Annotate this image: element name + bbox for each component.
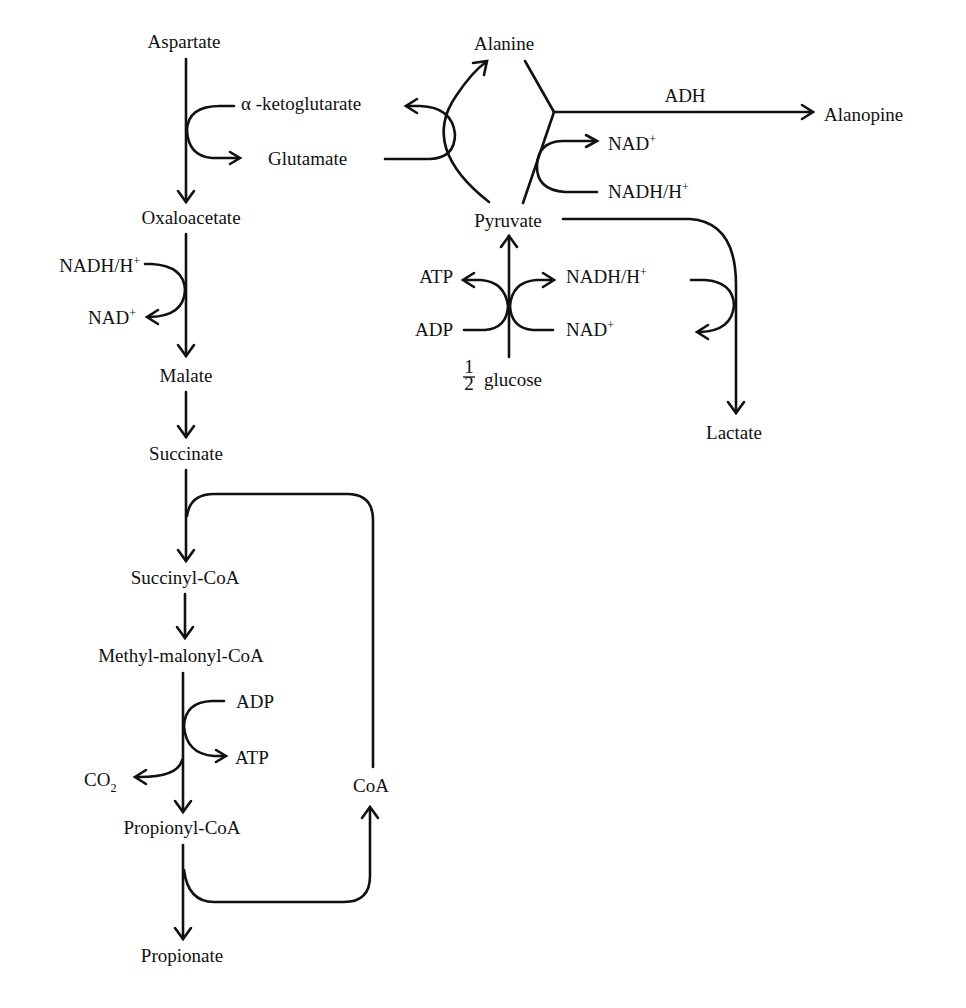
svg-text:glucose: glucose xyxy=(484,369,542,390)
label-lactate: Lactate xyxy=(706,422,762,443)
label-alanopine: Alanopine xyxy=(824,104,903,125)
arrow-pyruvate-to-lactate xyxy=(563,219,744,413)
svg-text:2: 2 xyxy=(464,373,474,394)
label-malate: Malate xyxy=(160,365,213,386)
arrow-glucose-to-pyruvate xyxy=(501,236,517,357)
arrow-adp-to-atp-mmcoa xyxy=(184,701,226,762)
label-glycolysis-nad: NAD+ xyxy=(566,318,614,340)
arrow-nadh-to-nad-oxalo xyxy=(145,264,185,324)
arrow-adp-to-atp-glycolysis xyxy=(463,273,508,330)
label-succinate: Succinate xyxy=(149,443,223,464)
arrow-nad-to-nadh-glycolysis xyxy=(510,273,554,330)
arrow-propionylcoa-to-propionate xyxy=(175,845,191,939)
label-oxalo-nad: NAD+ xyxy=(88,306,136,328)
label-oxalo-nadh: NADH/H+ xyxy=(59,254,140,276)
arrow-nadh-to-nad-lactate xyxy=(691,280,734,339)
label-mmcoa-atp: ATP xyxy=(235,747,269,768)
arrow-oxaloacetate-to-malate xyxy=(178,234,194,356)
label-coa: CoA xyxy=(353,775,389,796)
arrow-pyruvate-to-alanine xyxy=(444,61,489,202)
arrow-malate-to-succinate xyxy=(178,392,194,437)
label-methylmalonyl-coa: Methyl-malonyl-CoA xyxy=(98,645,264,666)
label-succinyl-coa: Succinyl-CoA xyxy=(131,567,240,588)
arrow-ketoglutarate-to-glutamate xyxy=(187,106,240,164)
label-glycolysis-adp: ADP xyxy=(415,319,453,340)
label-adh: ADH xyxy=(664,85,705,106)
arrow-nadh-to-nad-alanopine xyxy=(537,135,597,192)
label-propionate: Propionate xyxy=(141,945,223,966)
label-glutamate: Glutamate xyxy=(268,148,347,169)
label-glycolysis-atp: ATP xyxy=(419,266,453,287)
arrow-coa-loop-top xyxy=(187,494,373,767)
label-alpha-ketoglutarate: α -ketoglutarate xyxy=(241,93,361,114)
arrow-succinylcoa-to-methylmalonylcoa xyxy=(177,594,193,638)
label-aspartate: Aspartate xyxy=(148,31,221,52)
label-pyruvate: Pyruvate xyxy=(474,210,542,231)
label-alanopine-nad: NAD+ xyxy=(608,132,656,154)
label-half-glucose: 1 2 glucose xyxy=(463,356,542,394)
label-glycolysis-nadh: NADH/H+ xyxy=(566,265,647,287)
label-alanine: Alanine xyxy=(474,33,534,54)
label-propionyl-coa: Propionyl-CoA xyxy=(123,817,240,838)
arrow-co2-release xyxy=(135,760,182,784)
label-co2: CO2 xyxy=(84,769,116,795)
label-alanopine-nadh: NADH/H+ xyxy=(608,180,689,202)
label-oxaloacetate: Oxaloacetate xyxy=(141,207,240,228)
metabolic-pathway-diagram: Aspartate α -ketoglutarate Glutamate Oxa… xyxy=(0,0,966,1008)
label-mmcoa-adp: ADP xyxy=(236,691,274,712)
